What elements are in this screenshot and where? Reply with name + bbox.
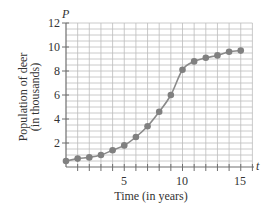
data-point — [237, 47, 244, 54]
grid — [66, 23, 252, 167]
data-point — [121, 142, 128, 149]
x-tick-label-5: 5 — [121, 174, 127, 188]
y-tick-label-10: 10 — [48, 40, 60, 54]
x-axis-title: Time (in years) — [114, 189, 188, 203]
deer-population-chart: P t 12 10 8 6 4 2 5 10 15 Time (in years… — [0, 0, 273, 208]
population-curve — [66, 51, 241, 161]
y-tick-label-12: 12 — [48, 16, 60, 30]
data-point — [191, 58, 198, 65]
data-point — [156, 109, 163, 116]
y-tick-label-2: 2 — [54, 136, 60, 150]
data-point — [203, 55, 210, 62]
data-point — [214, 52, 221, 59]
y-tick-label-4: 4 — [54, 112, 60, 126]
x-tick-label-15: 15 — [234, 174, 246, 188]
x-variable-label: t — [256, 159, 260, 173]
data-point — [98, 152, 105, 159]
y-tick-label-8: 8 — [54, 64, 60, 78]
y-axis-title: Population of deer (in thousands) — [16, 53, 42, 142]
data-point — [226, 49, 233, 56]
x-tick-label-10: 10 — [176, 174, 188, 188]
y-variable-label: P — [61, 7, 70, 21]
data-point — [86, 154, 93, 161]
data-point — [63, 158, 70, 165]
data-point — [109, 147, 116, 154]
data-point — [133, 134, 140, 141]
data-point — [144, 123, 151, 130]
data-point — [179, 67, 186, 74]
data-point — [74, 155, 81, 162]
y-axis-title-line2: (in thousands) — [28, 63, 42, 131]
y-tick-label-6: 6 — [54, 88, 60, 102]
data-point — [168, 92, 175, 99]
